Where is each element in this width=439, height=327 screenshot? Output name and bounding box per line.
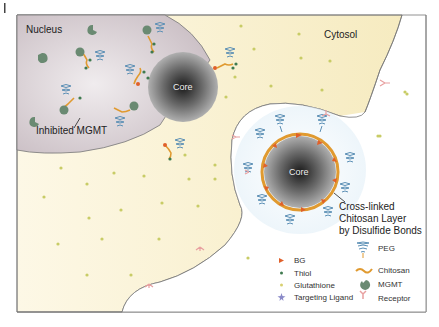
core-right-label: Core bbox=[289, 167, 309, 177]
cytosol-label: Cytosol bbox=[324, 29, 357, 40]
nanoparticle-diagram bbox=[0, 0, 439, 327]
legend-peg-label: PEG bbox=[378, 244, 395, 253]
crosslinked-label: Cross-linked Chitosan Layer by Disulfide… bbox=[339, 201, 422, 237]
core-left-label: Core bbox=[173, 82, 193, 92]
legend-bg-label: BG bbox=[294, 256, 306, 265]
nucleus-label: Nucleus bbox=[26, 24, 62, 35]
glutathione-legend-icon bbox=[280, 284, 283, 287]
crosslinked-line-2: Chitosan Layer bbox=[339, 213, 422, 225]
crosslinked-line-3: by Disulfide Bonds bbox=[339, 225, 422, 237]
corner-mark bbox=[4, 3, 6, 13]
legend-chitosan-label: Chitosan bbox=[378, 266, 410, 275]
legend-receptor-label: Receptor bbox=[378, 294, 410, 303]
inhibited-mgmt-label: Inhibited MGMT bbox=[36, 125, 107, 136]
legend-thiol-label: Thiol bbox=[294, 269, 311, 278]
legend-mgmt-label: MGMT bbox=[378, 280, 402, 289]
crosslinked-line-1: Cross-linked bbox=[339, 201, 422, 213]
legend-targeting-ligand-label: Targeting Ligand bbox=[294, 293, 353, 302]
legend-glutathione-label: Glutathione bbox=[294, 281, 335, 290]
thiol-legend-icon bbox=[280, 272, 283, 275]
mgmt-legend-icon bbox=[360, 280, 370, 290]
